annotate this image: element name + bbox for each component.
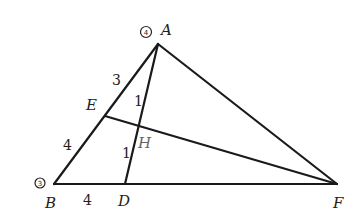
circled-marker-b: 3 (35, 178, 45, 188)
length-label-hd: 1 (122, 145, 131, 161)
length-label-ah: 1 (134, 93, 143, 109)
point-label-b: B (44, 194, 56, 212)
segment-af (158, 44, 337, 184)
circled-marker-a: 4 (141, 27, 152, 38)
length-label-bd: 4 (83, 192, 92, 208)
svg-text:4: 4 (144, 29, 149, 37)
length-label-eb: 4 (63, 137, 72, 153)
length-label-ae: 3 (112, 72, 121, 88)
geometry-diagram: 4 3 A B D E F H 3 4 1 1 4 (0, 0, 364, 213)
point-label-a: A (159, 21, 172, 39)
point-label-f: F (332, 194, 344, 212)
point-label-e: E (85, 96, 97, 114)
point-label-h: H (137, 134, 152, 152)
svg-text:3: 3 (38, 180, 42, 188)
point-label-d: D (117, 192, 130, 210)
